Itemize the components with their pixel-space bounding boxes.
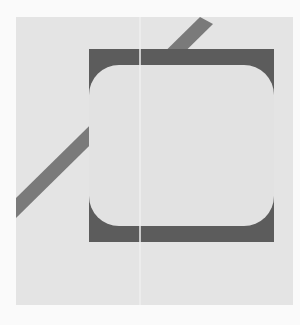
inner-rounded-rect [89,65,274,226]
abstract-figure [0,0,300,325]
